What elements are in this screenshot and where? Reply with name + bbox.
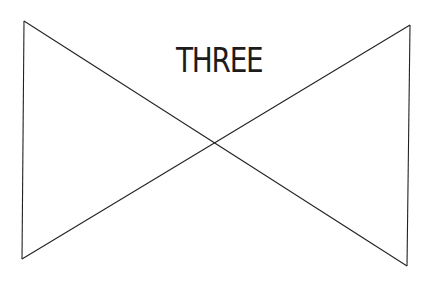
diagram-label: THREE: [176, 42, 245, 78]
right-edge-line: [407, 25, 410, 266]
left-edge-line: [22, 21, 24, 259]
